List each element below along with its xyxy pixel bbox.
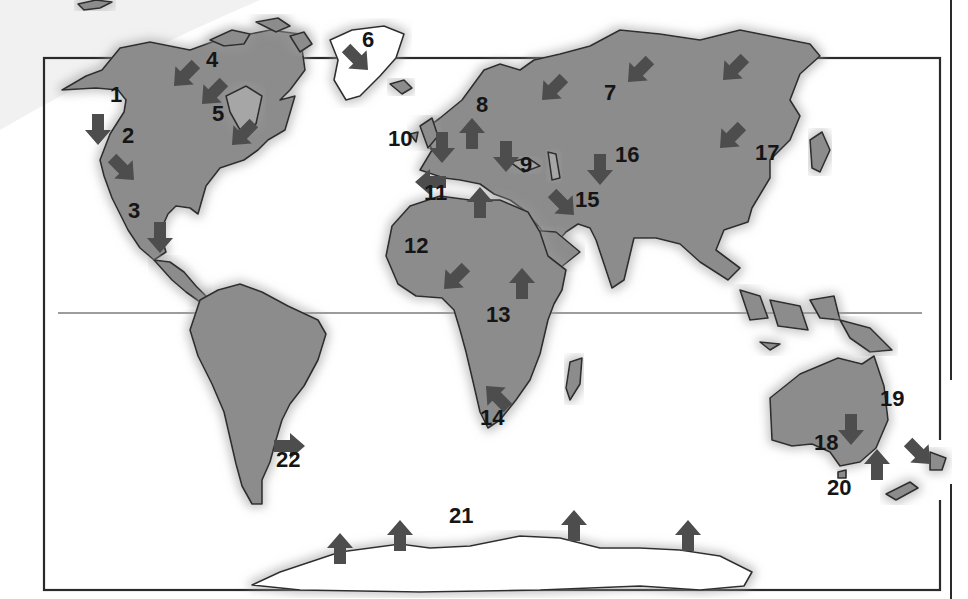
- landmass-antarctica: [252, 536, 752, 592]
- marker-label-7: 7: [604, 80, 616, 105]
- marker-label-17: 17: [755, 140, 779, 165]
- marker-label-21: 21: [449, 503, 473, 528]
- arrow-icon: [675, 520, 701, 551]
- marker-label-19: 19: [880, 386, 904, 411]
- landmass-south-america: [190, 284, 326, 504]
- landmass-new-guinea: [840, 320, 892, 352]
- marker-label-5: 5: [212, 101, 224, 126]
- marker-label-6: 6: [362, 27, 374, 52]
- marker-label-15: 15: [575, 187, 599, 212]
- marker-label-3: 3: [128, 198, 140, 223]
- marker-label-20: 20: [827, 475, 851, 500]
- marker-label-1: 1: [110, 82, 122, 107]
- landmass-central-america: [154, 260, 206, 302]
- landmass-madagascar: [566, 358, 582, 400]
- marker-label-2: 2: [122, 123, 134, 148]
- marker-label-8: 8: [476, 92, 488, 117]
- marker-label-12: 12: [404, 233, 428, 258]
- landmass-africa: [386, 196, 566, 428]
- world-map: 12345678910111213141516171819202122: [0, 0, 968, 599]
- landmass-southeast-asia-islands: [740, 290, 840, 350]
- marker-label-22: 22: [276, 447, 300, 472]
- marker-label-14: 14: [480, 405, 505, 430]
- marker-label-10: 10: [388, 126, 412, 151]
- marker-label-13: 13: [486, 302, 510, 327]
- marker-label-18: 18: [814, 430, 838, 455]
- landmass-japan: [810, 132, 830, 172]
- marker-label-16: 16: [615, 142, 639, 167]
- arrow-icon: [561, 510, 587, 541]
- marker-label-4: 4: [206, 47, 219, 72]
- marker-label-9: 9: [520, 152, 532, 177]
- landmass-iceland: [390, 80, 412, 94]
- marker-label-11: 11: [424, 180, 447, 205]
